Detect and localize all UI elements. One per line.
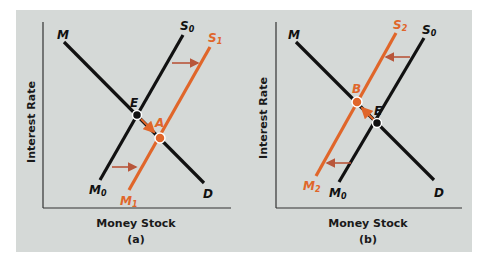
label-m-a: M [57, 28, 69, 42]
label-a: A [154, 116, 164, 130]
movement-arrow-b [362, 108, 374, 120]
caption-b: (b) [359, 233, 377, 246]
label-m1-a: M1 [120, 194, 138, 209]
label-b: B [352, 82, 361, 96]
label-e-a: E [130, 96, 139, 110]
panel-a: M S0 S1 E A M0 M1 D Interest Rate Money … [25, 19, 231, 246]
supply-curve-s0-a [100, 35, 183, 180]
label-e-b: E [374, 104, 383, 118]
panel-b: M S0 S2 B E M2 M0 D Interest Rate Money … [257, 18, 462, 246]
caption-a: (a) [127, 233, 144, 246]
y-axis-title-a: Interest Rate [25, 81, 38, 163]
point-e-a [133, 111, 142, 120]
label-d-a: D [203, 187, 213, 201]
point-a [155, 133, 165, 143]
label-s0-b: S0 [422, 23, 437, 38]
movement-arrow-a [141, 119, 154, 132]
label-s2-b: S2 [393, 18, 408, 33]
y-axis-title-b: Interest Rate [257, 77, 270, 159]
point-b [352, 97, 362, 107]
label-m0-b: M0 [329, 186, 347, 201]
x-axis-title-a: Money Stock [96, 217, 176, 230]
point-e-b [373, 119, 382, 128]
label-s0-a: S0 [180, 19, 195, 34]
label-m-b: M [288, 28, 300, 42]
money-market-diagram: M S0 S1 E A M0 M1 D Interest Rate Money … [0, 0, 486, 266]
label-m0-a: M0 [89, 183, 107, 198]
label-s1-a: S1 [208, 31, 222, 46]
x-axis-title-b: Money Stock [328, 217, 408, 230]
label-d-b: D [434, 186, 444, 200]
label-m2-b: M2 [303, 179, 321, 194]
